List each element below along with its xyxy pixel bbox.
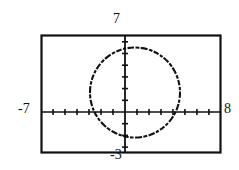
label-xmin: -7 <box>18 102 30 116</box>
calculator-screen-figure: 7 -3 -7 8 <box>0 0 239 170</box>
label-xmax: 8 <box>224 102 231 116</box>
viewing-window-frame <box>42 36 221 153</box>
label-ymin: -3 <box>110 148 122 162</box>
label-ymax: 7 <box>113 12 120 26</box>
